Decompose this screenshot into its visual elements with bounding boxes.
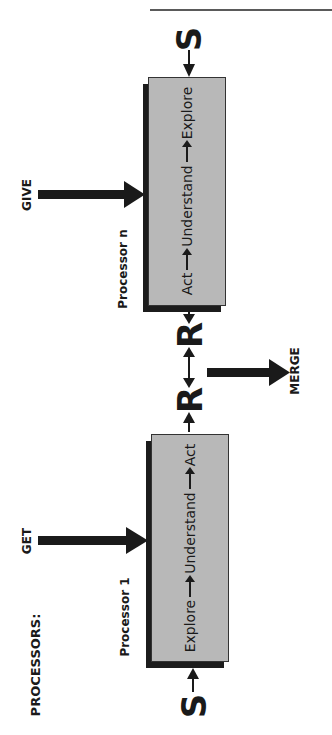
get-arrow (38, 527, 148, 554)
s-to-processor-1-arrow (187, 668, 199, 692)
r-to-r-arrows (183, 347, 195, 388)
symbol-s-top: S (172, 24, 206, 54)
symbol-r-lower: R (173, 387, 207, 413)
s-to-processor-n-arrow (183, 50, 195, 77)
merge-label: MERGE (288, 343, 304, 399)
merge-arrow (207, 359, 290, 386)
processor-1-step-understand: Understand (182, 492, 198, 574)
processor-1-step-explore: Explore (182, 600, 198, 653)
flow-arrow-icon (189, 577, 191, 597)
symbol-r-upper: R (173, 322, 207, 348)
processors-title: PROCESSORS: (28, 610, 46, 720)
flow-arrow-icon (189, 469, 191, 489)
processor-1-steps: Explore Understand Act (180, 438, 200, 658)
processor-1-to-r-arrow (183, 412, 195, 432)
processor-n-steps: Act Understand Explore (177, 81, 197, 301)
get-label: GET (20, 523, 36, 559)
processor-1-label: Processor 1 (118, 575, 134, 659)
processor-n-label: Processor n (116, 227, 132, 311)
flow-arrow-icon (186, 142, 188, 162)
give-label: GIVE (20, 175, 36, 215)
flow-arrow-icon (186, 250, 188, 270)
symbol-s-bottom: S (177, 691, 211, 721)
give-arrow (38, 181, 145, 208)
processor-1-step-act: Act (182, 444, 198, 467)
processor-n-step-understand: Understand (179, 165, 195, 247)
processor-n-step-explore: Explore (179, 87, 195, 140)
processor-n-step-act: Act (179, 273, 195, 296)
